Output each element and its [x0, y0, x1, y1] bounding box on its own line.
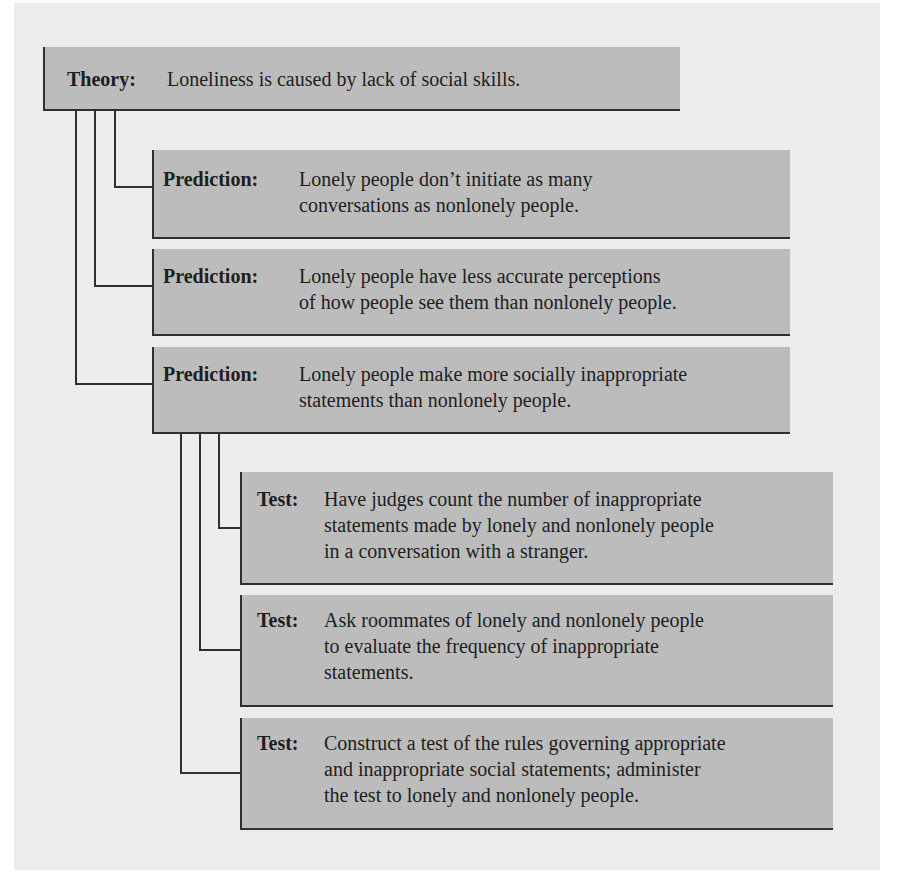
prediction-label: Prediction:: [163, 361, 258, 387]
connector-theory-prediction-3-horizontal: [75, 383, 154, 385]
test-label: Test:: [257, 486, 298, 512]
test-text-line: in a conversation with a stranger.: [324, 538, 714, 564]
test-box-2: Test: Ask roommates of lonely and nonlon…: [240, 595, 833, 707]
test-label: Test:: [257, 730, 298, 756]
test-text: Have judges count the number of inapprop…: [324, 486, 714, 564]
test-text: Ask roommates of lonely and nonlonely pe…: [324, 607, 704, 685]
connector-prediction-test-1-vertical: [218, 432, 220, 529]
prediction-label: Prediction:: [163, 166, 258, 192]
prediction-text: Lonely people have less accurate percept…: [299, 263, 677, 315]
connector-prediction-test-3-vertical: [180, 432, 182, 774]
connector-theory-prediction-3-vertical: [75, 110, 77, 385]
test-text: Construct a test of the rules governing …: [324, 730, 726, 808]
test-text-line: Have judges count the number of inapprop…: [324, 486, 714, 512]
test-text-line: Construct a test of the rules governing …: [324, 730, 726, 756]
connector-theory-prediction-2-horizontal: [94, 285, 154, 287]
prediction-text-line: conversations as nonlonely people.: [299, 192, 592, 218]
connector-prediction-test-3-horizontal: [180, 772, 242, 774]
test-text-line: statements.: [324, 659, 704, 685]
test-text-line: Ask roommates of lonely and nonlonely pe…: [324, 607, 704, 633]
test-label: Test:: [257, 607, 298, 633]
test-box-1: Test: Have judges count the number of in…: [240, 472, 833, 585]
prediction-box-3: Prediction: Lonely people make more soci…: [152, 347, 790, 434]
connector-theory-prediction-2-vertical: [94, 110, 96, 287]
prediction-text-line: Lonely people don’t initiate as many: [299, 166, 592, 192]
connector-prediction-test-1-horizontal: [218, 527, 242, 529]
prediction-box-1: Prediction: Lonely people don’t initiate…: [152, 150, 790, 239]
theory-label: Theory:: [67, 66, 136, 92]
theory-text-line: Loneliness is caused by lack of social s…: [167, 66, 520, 92]
test-text-line: statements made by lonely and nonlonely …: [324, 512, 714, 538]
prediction-text-line: statements than nonlonely people.: [299, 387, 687, 413]
theory-box: Theory: Loneliness is caused by lack of …: [43, 47, 680, 111]
test-box-3: Test: Construct a test of the rules gove…: [240, 718, 833, 830]
test-text-line: and inappropriate social statements; adm…: [324, 756, 726, 782]
connector-prediction-test-2-vertical: [199, 432, 201, 651]
prediction-text: Lonely people make more socially inappro…: [299, 361, 687, 413]
prediction-label: Prediction:: [163, 263, 258, 289]
test-text-line: the test to lonely and nonlonely people.: [324, 782, 726, 808]
prediction-box-2: Prediction: Lonely people have less accu…: [152, 249, 790, 336]
connector-prediction-test-2-horizontal: [199, 649, 242, 651]
prediction-text: Lonely people don’t initiate as many con…: [299, 166, 592, 218]
connector-theory-prediction-1-horizontal: [114, 186, 154, 188]
connector-theory-prediction-1-vertical: [114, 110, 116, 188]
test-text-line: to evaluate the frequency of inappropria…: [324, 633, 704, 659]
theory-text: Loneliness is caused by lack of social s…: [167, 66, 520, 92]
prediction-text-line: Lonely people make more socially inappro…: [299, 361, 687, 387]
prediction-text-line: Lonely people have less accurate percept…: [299, 263, 677, 289]
prediction-text-line: of how people see them than nonlonely pe…: [299, 289, 677, 315]
